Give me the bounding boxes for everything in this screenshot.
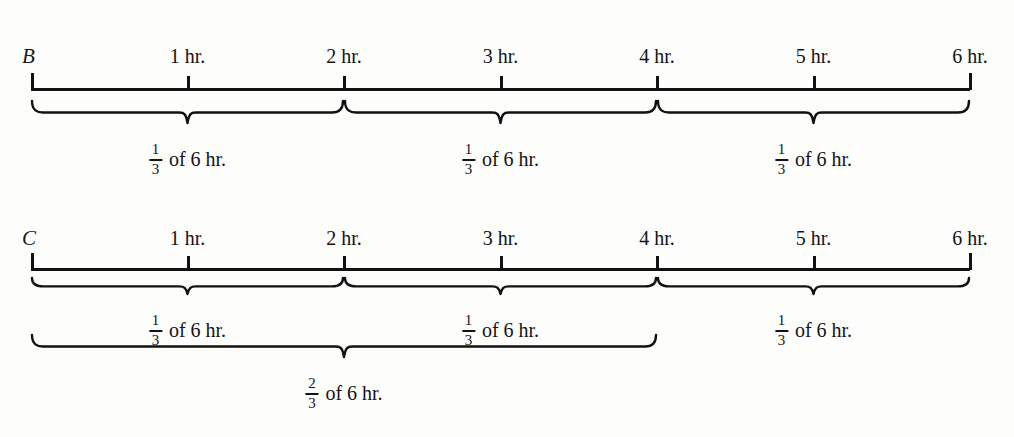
row-label-b: B [22, 46, 35, 67]
fraction-2-over-3: 23 [305, 376, 318, 412]
fraction-of-text: of 6 hr. [482, 149, 539, 169]
tick-caption-3hr-row-c: 3 hr. [483, 228, 519, 248]
fraction-number-line-diagram: B1 hr.2 hr.3 hr.4 hr.5 hr.6 hr.13of 6 hr… [0, 0, 1014, 437]
tick-start-row-c [31, 253, 34, 270]
tick-caption-3hr-row-b: 3 hr. [483, 46, 519, 66]
tick-5hr-row-b [813, 76, 816, 90]
tick-caption-4hr-row-c: 4 hr. [639, 228, 675, 248]
tick-4hr-row-b [656, 76, 659, 90]
tick-caption-4hr-row-b: 4 hr. [639, 46, 675, 66]
brace-label-row-c-2: 13of 6 hr. [775, 312, 852, 348]
tick-caption-5hr-row-b: 5 hr. [796, 46, 832, 66]
fraction-1-over-3: 13 [775, 142, 788, 178]
fraction-of-text: of 6 hr. [169, 149, 226, 169]
tick-caption-6hr-row-c: 6 hr. [952, 228, 988, 248]
brace-label-row-b-0: 13of 6 hr. [149, 141, 226, 177]
fraction-numerator: 1 [150, 142, 162, 158]
lower-brace-row-c-0 [31, 333, 657, 359]
tick-1hr-row-b [187, 76, 190, 90]
fraction-1-over-3: 13 [775, 313, 788, 349]
fraction-denominator: 3 [463, 162, 475, 178]
tick-3hr-row-b [500, 76, 503, 90]
tick-caption-1hr-row-b: 1 hr. [170, 46, 206, 66]
fraction-denominator: 3 [776, 162, 788, 178]
lower-brace-label-row-c-0: 23of 6 hr. [305, 375, 382, 411]
fraction-denominator: 3 [776, 333, 788, 349]
tick-5hr-row-c [813, 256, 816, 270]
tick-caption-1hr-row-c: 1 hr. [170, 228, 206, 248]
fraction-of-text: of 6 hr. [795, 149, 852, 169]
tick-2hr-row-c [343, 256, 346, 270]
fraction-1-over-3: 13 [149, 142, 162, 178]
tick-4hr-row-c [656, 256, 659, 270]
tick-6hr-row-b [969, 73, 972, 90]
fraction-of-text: of 6 hr. [325, 383, 382, 403]
tick-caption-2hr-row-b: 2 hr. [326, 46, 362, 66]
fraction-numerator: 1 [463, 142, 475, 158]
fraction-numerator: 1 [776, 142, 788, 158]
tick-1hr-row-c [187, 256, 190, 270]
tick-2hr-row-b [343, 76, 346, 90]
brace-label-row-b-1: 13of 6 hr. [462, 141, 539, 177]
tick-caption-6hr-row-b: 6 hr. [952, 46, 988, 66]
tick-start-row-b [31, 73, 34, 90]
brace-label-row-b-2: 13of 6 hr. [775, 141, 852, 177]
fraction-numerator: 1 [776, 313, 788, 329]
tick-caption-2hr-row-c: 2 hr. [326, 228, 362, 248]
fraction-1-over-3: 13 [462, 142, 475, 178]
fraction-numerator: 2 [306, 376, 318, 392]
fraction-of-text: of 6 hr. [795, 320, 852, 340]
tick-6hr-row-c [969, 253, 972, 270]
tick-caption-5hr-row-c: 5 hr. [796, 228, 832, 248]
brace-row-b-0 [31, 99, 344, 125]
brace-row-c-0 [31, 276, 344, 296]
tick-3hr-row-c [500, 256, 503, 270]
row-label-c: C [22, 228, 36, 249]
fraction-denominator: 3 [150, 162, 162, 178]
brace-row-b-2 [657, 99, 970, 125]
fraction-numerator: 1 [150, 313, 162, 329]
brace-row-c-1 [344, 276, 657, 296]
fraction-denominator: 3 [306, 396, 318, 412]
fraction-numerator: 1 [463, 313, 475, 329]
brace-row-b-1 [344, 99, 657, 125]
brace-row-c-2 [657, 276, 970, 296]
